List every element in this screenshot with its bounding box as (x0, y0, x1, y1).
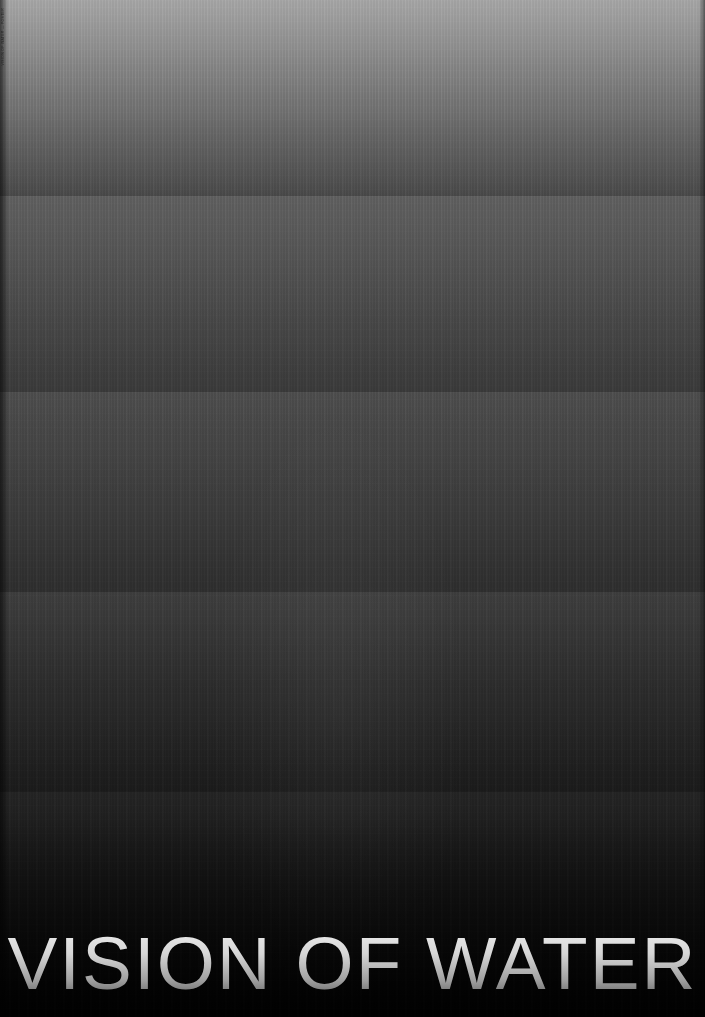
credit-text: VISION OF WATER — POSTER (1, 8, 6, 66)
poster-title-text: VISION OF WATER (8, 923, 698, 1005)
gradient-band-stack (0, 0, 705, 1017)
title-block: VISION OF WATER (0, 923, 705, 1009)
band-1 (0, 0, 705, 196)
poster-title: VISION OF WATER (0, 923, 705, 1009)
poster-canvas: VISION OF WATER — POSTER VISION OF WATER (0, 0, 705, 1017)
band-4 (0, 592, 705, 792)
band-3 (0, 392, 705, 592)
band-2 (0, 196, 705, 392)
